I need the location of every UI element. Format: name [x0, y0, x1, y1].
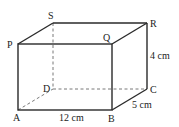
- vertex-label-D: D: [43, 83, 50, 94]
- vertex-label-Q: Q: [103, 32, 111, 43]
- cuboid-diagram: S R P Q D C A B 12 cm 5 cm 4 cm: [0, 0, 179, 127]
- dimension-label-height: 4 cm: [150, 50, 170, 61]
- edge-QR: [112, 23, 147, 44]
- vertex-label-R: R: [150, 18, 157, 29]
- vertex-label-C: C: [150, 84, 157, 95]
- dimension-label-length: 12 cm: [59, 112, 84, 123]
- edge-PS: [18, 23, 53, 44]
- dimension-label-width: 5 cm: [132, 99, 152, 110]
- vertex-label-B: B: [108, 113, 115, 124]
- visible-edges: [18, 23, 147, 110]
- vertex-label-S: S: [48, 10, 54, 21]
- vertex-label-A: A: [13, 112, 21, 123]
- cuboid-figure: S R P Q D C A B 12 cm 5 cm 4 cm: [0, 0, 179, 127]
- vertex-label-P: P: [7, 39, 13, 50]
- front-face-PQBA: [18, 44, 112, 110]
- hidden-edges: [18, 23, 147, 110]
